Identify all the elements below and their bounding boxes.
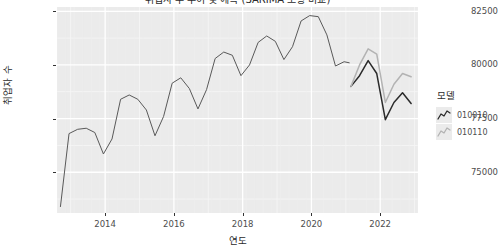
x-tick-label: 2020: [291, 219, 331, 229]
y-tick-label: 80000: [454, 60, 498, 68]
series-line-historical: [60, 16, 349, 207]
chart-figure: 취업자 수 추이 및 예측 (SARIMA 모형 비교) 75000775008…: [0, 0, 498, 251]
minor-gridlines: [57, 7, 418, 213]
plot-panel: [57, 7, 418, 213]
x-tick-mark: [105, 213, 106, 216]
x-axis-title: 연도: [57, 233, 418, 247]
legend-item[interactable]: 010010: [436, 107, 488, 123]
data-series-layer: [60, 16, 411, 207]
x-tick-label: 2016: [154, 219, 194, 229]
legend-item-label: 010010: [457, 111, 488, 120]
series-line-010010: [351, 61, 411, 120]
x-tick-mark: [311, 213, 312, 216]
x-tick-label: 2014: [85, 219, 125, 229]
legend-item-label: 010110: [457, 128, 488, 137]
x-tick-label: 2018: [223, 219, 263, 229]
x-tick-label: 2022: [360, 219, 400, 229]
legend-title: 모델: [437, 88, 488, 102]
x-tick-mark: [243, 213, 244, 216]
x-tick-mark: [380, 213, 381, 216]
y-tick-label: 75000: [454, 168, 498, 176]
y-tick-mark: [53, 11, 56, 12]
legend-key-line-icon: [436, 124, 452, 140]
legend: 모델 010010010110: [436, 88, 488, 141]
y-tick-mark: [53, 119, 56, 120]
chart-title: 취업자 수 추이 및 예측 (SARIMA 모형 비교): [57, 0, 418, 6]
y-tick-mark: [53, 172, 56, 173]
x-tick-mark: [174, 213, 175, 216]
plot-svg: [57, 7, 418, 213]
legend-key-line-icon: [436, 107, 452, 123]
y-axis-title: 취업자 수: [0, 54, 14, 116]
legend-items: 010010010110: [436, 107, 488, 140]
legend-item[interactable]: 010110: [436, 124, 488, 140]
y-tick-label: 82500: [454, 7, 498, 15]
y-tick-mark: [53, 65, 56, 66]
